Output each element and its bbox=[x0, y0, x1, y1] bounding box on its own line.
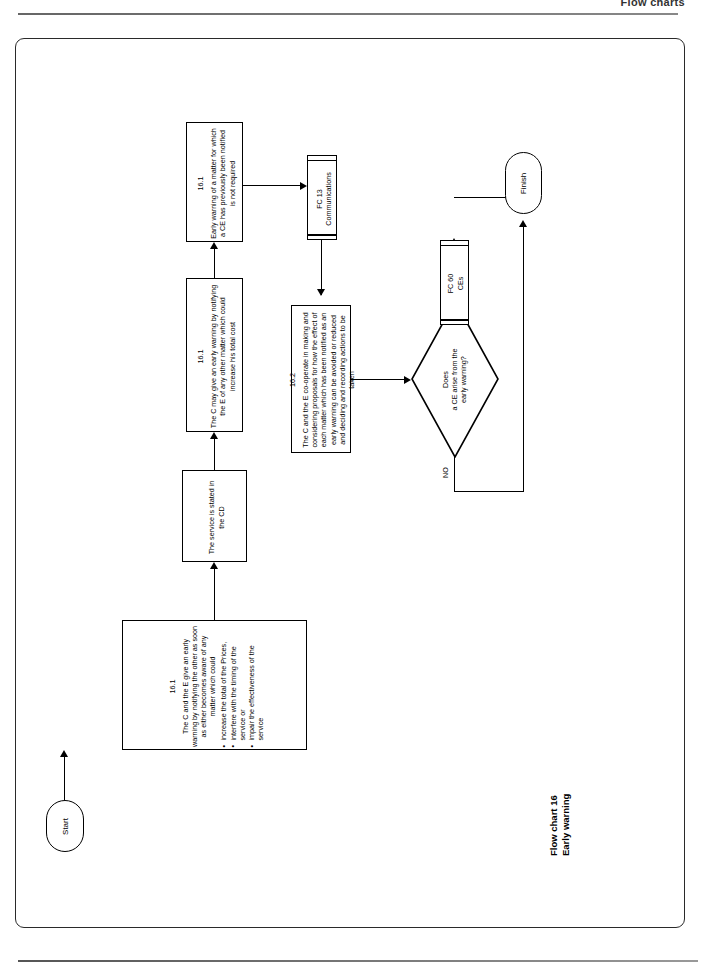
node-text: The service is stated in the CD bbox=[206, 475, 224, 559]
caption-line-1: Flow chart 16 bbox=[548, 736, 560, 856]
decision-line-3: early warning? bbox=[459, 356, 468, 403]
clause-number: 16.1 bbox=[167, 679, 176, 693]
clause-number: 16.1 bbox=[195, 349, 204, 363]
arrowhead-fc13-to-cooperation bbox=[317, 289, 325, 296]
arrowhead-ew-not-required-to-fc13 bbox=[300, 182, 307, 190]
arrowhead-no-to-finish bbox=[519, 220, 527, 227]
connector-cooperation-to-decision bbox=[351, 379, 405, 380]
connector-start-to-ew-main bbox=[64, 756, 65, 800]
clause-number: 16.2 bbox=[288, 373, 297, 387]
connector-ew-optional-to-ew-not-required bbox=[214, 248, 215, 278]
flowchart-caption: Flow chart 16 Early warning bbox=[548, 736, 588, 856]
node-early-warning-not-required: 16.1 Early warning of a matter for which… bbox=[186, 122, 243, 242]
node-text: The C and the E co-operate in making and… bbox=[301, 310, 356, 450]
footer-rule bbox=[18, 960, 698, 962]
fc13-line-1: FC 13 bbox=[314, 189, 323, 209]
connector-no-up-to-finish bbox=[523, 226, 524, 492]
connector-ew-main-to-service-cd bbox=[214, 568, 215, 620]
clause-number: 16.1 bbox=[195, 176, 204, 190]
decision-line-1: Does bbox=[441, 371, 450, 388]
start-terminator: Start bbox=[46, 800, 84, 852]
bullet-item: increase the total of the Prices, bbox=[218, 625, 227, 747]
node-text: The C may give an early warning by notif… bbox=[208, 283, 236, 429]
connector-decision-no-down bbox=[454, 457, 455, 492]
finish-label: Finish bbox=[519, 172, 528, 193]
bullet-item: interfere with the timing of the service… bbox=[228, 625, 246, 747]
node-early-warning-optional: 16.1 The C may give an early warning by … bbox=[186, 278, 243, 432]
connector-ew-not-required-to-fc13 bbox=[243, 185, 301, 186]
arrowhead-start-to-ew-main bbox=[60, 750, 68, 757]
edge-label-no: NO bbox=[441, 467, 450, 478]
node-text: Early warning of a matter for which a CE… bbox=[208, 127, 236, 239]
decision-line-2: a CE arise from the bbox=[450, 348, 459, 410]
node-early-warning-main: 16.1 The C and the E give an early warni… bbox=[122, 620, 307, 750]
connector-fc13-to-cooperation bbox=[321, 240, 322, 295]
bullet-list: increase the total of the Prices, interf… bbox=[218, 625, 264, 747]
header-rule bbox=[18, 13, 678, 15]
header-title: Flow charts bbox=[621, 0, 685, 8]
bullet-item: impair the effectiveness of the service bbox=[246, 625, 264, 747]
fc60-line-1: FC 60 bbox=[446, 274, 455, 294]
page-header: Flow charts bbox=[0, 0, 715, 40]
connector-service-cd-to-ew-optional bbox=[214, 438, 215, 470]
node-service-in-cd: The service is stated in the CD bbox=[182, 470, 247, 562]
start-label: Start bbox=[61, 818, 70, 835]
node-text: The C and the E give an early warning by… bbox=[180, 625, 217, 747]
connector-decision-no-right bbox=[454, 491, 524, 492]
fc13-line-2: Communications bbox=[323, 172, 332, 226]
fc60-line-2: CEs bbox=[456, 277, 465, 291]
arrowhead-cooperation-to-decision bbox=[404, 376, 411, 384]
node-fc60-ces: FC 60 CEs bbox=[440, 240, 469, 325]
caption-line-2: Early warning bbox=[560, 736, 572, 856]
node-cooperation: 16.2 The C and the E co-operate in makin… bbox=[291, 305, 351, 453]
finish-terminator: Finish bbox=[505, 152, 542, 214]
node-fc13-communications: FC 13 Communications bbox=[307, 155, 337, 240]
